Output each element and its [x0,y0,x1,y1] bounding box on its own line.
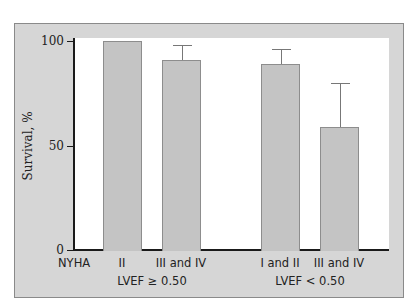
x-label-bar-2: III and IV [156,256,206,270]
y-tick-label-100: 100 [24,35,64,47]
bar-4 [320,127,359,251]
bar-3 [261,64,300,251]
y-tick-label-0: 0 [24,244,64,256]
error-cap-2 [173,45,192,46]
error-bar-4 [340,83,341,127]
error-cap-4 [331,83,350,84]
bar-1 [103,41,142,251]
x-row-label: NYHA [58,256,90,270]
x-label-bar-1: II [119,256,126,270]
error-cap-3 [272,49,291,50]
y-tick-0 [67,250,73,251]
group-label-lvef-low: LVEF < 0.50 [275,274,344,288]
bar-2 [162,60,201,251]
x-label-bar-3: I and II [260,256,299,270]
y-tick-100 [67,41,73,42]
y-axis-label: Survival, % [21,111,35,180]
x-label-bar-4: III and IV [314,256,364,270]
error-bar-3 [281,49,282,64]
group-label-lvef-high: LVEF ≥ 0.50 [117,274,186,288]
error-bar-2 [182,45,183,60]
y-tick-50 [67,146,73,147]
